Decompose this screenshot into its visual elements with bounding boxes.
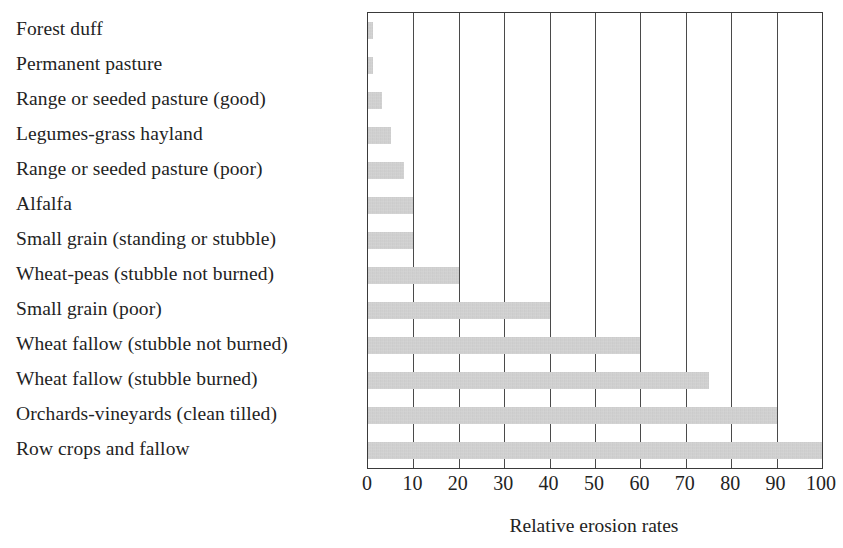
bar-row <box>368 153 822 188</box>
bar <box>368 92 382 109</box>
category-label: Wheat-peas (stubble not burned) <box>0 257 352 292</box>
bar <box>368 302 550 319</box>
x-tick-label: 20 <box>448 472 468 495</box>
erosion-rates-bar-chart: Forest duffPermanent pastureRange or see… <box>0 0 843 548</box>
category-label: Orchards-vineyards (clean tilled) <box>0 397 352 432</box>
category-label: Row crops and fallow <box>0 432 352 467</box>
bar-row <box>368 188 822 223</box>
x-tick-label: 10 <box>402 472 422 495</box>
category-label-column: Forest duffPermanent pastureRange or see… <box>0 12 352 467</box>
x-tick-label: 60 <box>629 472 649 495</box>
bar <box>368 267 459 284</box>
x-tick-label: 50 <box>584 472 604 495</box>
bar <box>368 407 777 424</box>
category-label: Range or seeded pasture (good) <box>0 82 352 117</box>
category-label: Legumes-grass hayland <box>0 117 352 152</box>
bar <box>368 442 822 459</box>
x-axis-title: Relative erosion rates <box>367 515 821 537</box>
category-label: Wheat fallow (stubble not burned) <box>0 327 352 362</box>
bar-row <box>368 118 822 153</box>
x-tick-label: 40 <box>539 472 559 495</box>
x-axis-tick-labels: 0102030405060708090100 <box>367 472 821 502</box>
bar-row <box>368 363 822 398</box>
bar-row <box>368 328 822 363</box>
bar-row <box>368 398 822 433</box>
plot-area <box>367 12 823 469</box>
category-label: Range or seeded pasture (poor) <box>0 152 352 187</box>
bar <box>368 232 413 249</box>
category-label: Alfalfa <box>0 187 352 222</box>
x-tick-label: 90 <box>766 472 786 495</box>
bar-row <box>368 48 822 83</box>
x-tick-label: 80 <box>720 472 740 495</box>
bar <box>368 57 373 74</box>
bar-row <box>368 433 822 468</box>
category-label: Permanent pasture <box>0 47 352 82</box>
category-label: Forest duff <box>0 12 352 47</box>
x-tick-label: 100 <box>806 472 836 495</box>
bar-row <box>368 258 822 293</box>
bar <box>368 127 391 144</box>
bar-row <box>368 223 822 258</box>
bar <box>368 197 413 214</box>
x-tick-label: 30 <box>493 472 513 495</box>
category-label: Small grain (standing or stubble) <box>0 222 352 257</box>
bar <box>368 162 404 179</box>
bar-row <box>368 13 822 48</box>
bar-series <box>368 13 822 468</box>
bar <box>368 372 709 389</box>
x-tick-label: 70 <box>675 472 695 495</box>
x-tick-label: 0 <box>362 472 372 495</box>
bar <box>368 22 373 39</box>
bar-row <box>368 83 822 118</box>
category-label: Small grain (poor) <box>0 292 352 327</box>
bar <box>368 337 640 354</box>
bar-row <box>368 293 822 328</box>
category-label: Wheat fallow (stubble burned) <box>0 362 352 397</box>
